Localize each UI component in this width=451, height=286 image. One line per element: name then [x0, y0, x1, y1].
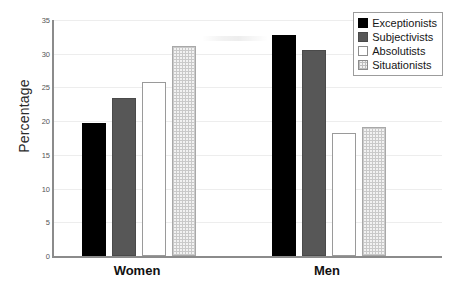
legend-swatch-icon	[358, 60, 368, 70]
bar-men-absolutists	[332, 133, 356, 256]
y-axis-tick-label: 5	[30, 218, 50, 227]
y-axis-tick-label: 0	[30, 252, 50, 261]
y-axis-tick-label: 30	[30, 49, 50, 58]
x-axis-category-label-women: Women	[77, 263, 197, 278]
x-axis-category-label-men: Men	[267, 263, 387, 278]
legend-item-label: Subjectivists	[372, 31, 433, 43]
bar-women-exceptionists	[82, 123, 106, 256]
bar-women-absolutists	[142, 82, 166, 256]
bar-women-situationists	[172, 46, 196, 256]
bar-chart: Percentage 05101520253035 Exceptionists …	[0, 0, 451, 286]
y-axis-tick-label: 25	[30, 83, 50, 92]
y-axis-tick-label: 35	[30, 16, 50, 25]
bar-men-situationists	[362, 127, 386, 256]
legend-swatch-icon	[358, 18, 368, 28]
legend-item-situationists: Situationists	[358, 58, 437, 72]
gridline	[54, 87, 442, 88]
y-axis-tick-label: 10	[30, 184, 50, 193]
legend-item-subjectivists: Subjectivists	[358, 30, 437, 44]
y-axis-tick-label: 20	[30, 117, 50, 126]
legend-item-exceptionists: Exceptionists	[358, 16, 437, 30]
legend-swatch-icon	[358, 46, 368, 56]
y-axis-tick-label: 15	[30, 150, 50, 159]
bar-women-subjectivists	[112, 98, 136, 256]
legend-item-label: Absolutists	[372, 45, 425, 57]
bar-men-subjectivists	[302, 50, 326, 256]
legend-item-label: Exceptionists	[372, 17, 437, 29]
scan-artifact	[202, 36, 268, 41]
legend-swatch-icon	[358, 32, 368, 42]
chart-legend: Exceptionists Subjectivists Absolutists …	[353, 12, 443, 76]
bar-men-exceptionists	[272, 35, 296, 256]
legend-item-label: Situationists	[372, 59, 431, 71]
legend-item-absolutists: Absolutists	[358, 44, 437, 58]
